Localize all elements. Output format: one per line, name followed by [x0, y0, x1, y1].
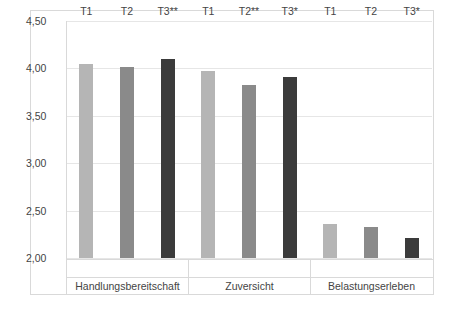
group-separator [310, 259, 311, 295]
y-axis-tick-label: 2,50 [26, 205, 66, 217]
y-axis-tick-label: 4,50 [26, 15, 66, 27]
bar [201, 71, 215, 258]
bar [79, 64, 93, 258]
y-axis-tick-text: 3,00 [26, 157, 66, 169]
bar [323, 224, 337, 258]
group-separator [66, 259, 67, 295]
bar [405, 238, 419, 258]
group-separator [188, 259, 189, 295]
x-axis-group-label: Zuversicht [188, 277, 310, 295]
y-axis-tick-text: 3,50 [26, 110, 66, 122]
y-axis-tick-label: 3,00 [26, 157, 66, 169]
bar [364, 227, 378, 258]
y-axis-tick-text: 2,00 [26, 252, 66, 264]
plot-area [66, 21, 432, 258]
bar [161, 59, 175, 258]
y-axis-line [66, 21, 67, 259]
x-axis-tick-label: T3* [387, 4, 437, 18]
bar-chart: 4,504,003,503,002,502,00 T1T2T3**T1T2**T… [0, 0, 453, 317]
bar [120, 67, 134, 258]
y-axis-tick-label: 3,50 [26, 110, 66, 122]
y-axis-tick-label: 2,00 [26, 252, 66, 264]
bar [283, 77, 297, 258]
gridline [66, 21, 432, 22]
y-axis-tick-label: 4,00 [26, 62, 66, 74]
x-axis-group-label: Handlungsbereitschaft [66, 277, 188, 295]
y-axis-tick-text: 4,00 [26, 62, 66, 74]
y-axis-tick-text: 2,50 [26, 205, 66, 217]
bar [242, 85, 256, 258]
label-band-top-border [66, 259, 433, 260]
x-axis-group-label: Belastungserleben [310, 277, 432, 295]
y-axis-labels: 4,504,003,503,002,502,00 [26, 21, 66, 258]
y-axis-tick-text: 4,50 [26, 15, 66, 27]
